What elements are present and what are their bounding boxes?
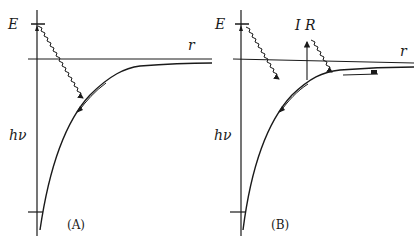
- absorption-arrowhead-icon: [239, 25, 243, 31]
- wavy-secondary-emission-arrow: [311, 40, 332, 72]
- energy-label: E: [214, 16, 225, 32]
- panel-b: E I R r hν (B): [214, 10, 414, 236]
- dissociation-arrowhead-icon: [371, 70, 377, 74]
- photon-energy-label: hν: [214, 127, 232, 143]
- panel-caption-b: (B): [271, 218, 289, 232]
- diagram-canvas: E r hν (A) E I R r hν (B): [0, 0, 420, 241]
- panel-a: E r hν (A): [7, 10, 212, 236]
- wavy-emission-arrow: [246, 27, 279, 79]
- relaxation-path: [280, 84, 308, 112]
- energy-label: E: [7, 16, 18, 32]
- wavy-emission-arrow: [38, 26, 83, 98]
- potential-curve: [40, 63, 212, 230]
- photon-energy-label: hν: [9, 127, 27, 143]
- panel-caption-a: (A): [67, 218, 85, 232]
- dissociation-path: [343, 74, 378, 75]
- potential-curve: [243, 67, 414, 230]
- distance-label: r: [400, 43, 408, 59]
- distance-label: r: [188, 37, 196, 53]
- infrared-label: I R: [294, 17, 316, 33]
